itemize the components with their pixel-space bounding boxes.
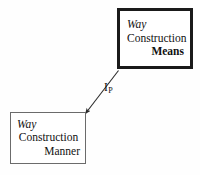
node-manner-line-2: Construction <box>17 131 80 145</box>
node-manner-line-1: Way <box>17 118 80 132</box>
edge-label-ip: IP <box>104 81 112 93</box>
node-way-construction-manner[interactable]: Way Construction Manner <box>10 112 86 164</box>
node-means-line-3: Means <box>127 45 184 59</box>
edge-label-subscript: P <box>108 86 112 95</box>
edge-inheritance-line <box>86 71 119 114</box>
node-way-construction-means[interactable]: Way Construction Means <box>117 8 193 69</box>
node-manner-line-3: Manner <box>17 145 80 159</box>
node-means-line-1: Way <box>127 18 184 32</box>
node-means-line-2: Construction <box>127 32 184 46</box>
diagram-canvas: IP Way Construction Means Way Constructi… <box>0 0 200 175</box>
